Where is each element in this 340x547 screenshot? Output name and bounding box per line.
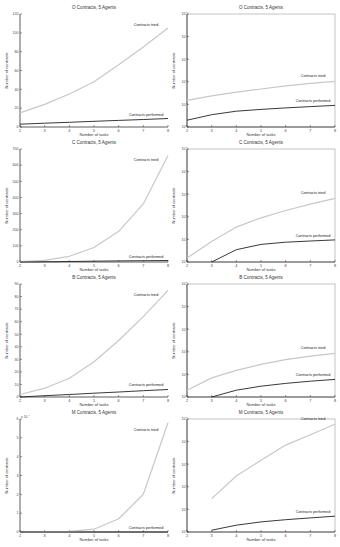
series-annotation: Contracts tried [134,158,159,162]
y-tick-label: 500 [13,180,19,184]
x-tick-label: 4 [68,534,70,538]
chart-panel-C-linear: C Contracts, 5 Agents2345678010020030040… [0,135,170,275]
y-tick-label: 10 [182,328,186,332]
series-annotation: Contracts performed [129,383,164,387]
y-tick-label: 4 [17,455,19,459]
y-tick-label: 50 [15,333,19,337]
y-tick-label: 6 [17,417,19,421]
x-tick-label: 3 [44,264,46,268]
chart-panel-M-log: M Contracts, 5 Agents2345678100101102103… [170,405,340,547]
x-tick-label: 8 [334,129,336,133]
y-tick-label: 300 [13,212,19,216]
series-annotation: Contracts performed [296,99,331,103]
series-line-performed [20,119,168,125]
x-tick-label: 6 [118,264,120,268]
x-tick-label: 6 [285,264,287,268]
y-tick-label: 200 [13,228,19,232]
x-tick-label: 3 [211,264,213,268]
y-tick-label: 60 [15,320,19,324]
y-tick-label: 700 [13,147,19,151]
x-tick-label: 2 [186,129,188,133]
y-tick-label: 3 [17,474,19,478]
y-tick-label: 10 [182,350,186,354]
y-tick-label: 10 [182,508,186,512]
y-tick-label: 40 [15,345,19,349]
y-tick-label: 90 [15,282,19,286]
chart-title: C Contracts, 5 Agents [72,140,117,145]
y-tick-label: 10 [182,417,186,421]
series-annotation: Contracts performed [296,373,331,377]
series-annotation: Contracts performed [296,234,331,238]
x-tick-label: 2 [186,399,188,403]
series-line-tried [187,81,335,100]
y-tick-label: 1 [17,511,19,515]
svg-text:4: 4 [29,414,31,417]
x-tick-label: 7 [142,399,144,403]
y-tick-label: 10 [182,463,186,467]
x-axis-label: Number of tasks [246,537,275,542]
y-tick-label: 10 [182,147,186,151]
y-tick-label: 10 [182,80,186,84]
y-tick-label: 100 [13,31,19,35]
y-axis-label: Number of contracts [171,52,176,88]
y-tick-label: 0 [17,125,19,129]
x-tick-label: 8 [167,129,169,133]
x-tick-label: 7 [142,534,144,538]
x-tick-label: 4 [235,129,237,133]
series-annotation: Contracts tried [301,346,326,350]
x-tick-label: 2 [186,534,188,538]
y-tick-label: 10 [182,12,186,16]
y-tick-label: 80 [15,50,19,54]
chart-title: O Contracts, 5 Agents [239,5,284,10]
x-tick-label: 3 [211,399,213,403]
chart-title: B Contracts, 5 Agents [239,275,283,280]
series-annotation: Contracts tried [134,428,159,432]
y-tick-label: 10 [182,170,186,174]
y-tick-label: 10 [182,305,186,309]
y-tick-label: 0 [17,260,19,264]
series-annotation: Contracts performed [296,510,331,514]
chart-panel-C-log: C Contracts, 5 Agents2345678100101102103… [170,135,340,275]
chart-panel-O-linear: O Contracts, 5 Agents2345678020406080100… [0,0,170,140]
x-tick-label: 6 [285,129,287,133]
y-axis-label: Number of contracts [171,322,176,358]
series-line-performed [212,516,335,530]
y-tick-label: 10 [182,238,186,242]
y-tick-label: 10 [182,58,186,62]
y-tick-label: 30 [15,358,19,362]
series-annotation: Contracts tried [134,23,159,27]
x-tick-label: 8 [167,264,169,268]
chart-panel-M-linear: M Contracts, 5 Agents23456780123456x 104… [0,405,170,547]
y-tick-label: 20 [15,106,19,110]
y-tick-label: 5 [17,436,19,440]
series-line-performed [187,105,335,120]
y-tick-label: 70 [15,307,19,311]
y-tick-label: 80 [15,295,19,299]
y-tick-label: 0 [17,530,19,534]
series-annotation: Contracts performed [129,526,164,530]
y-tick-label: 40 [15,88,19,92]
series-annotation: Contracts performed [129,113,164,117]
x-tick-label: 2 [19,399,21,403]
y-tick-label: 100 [13,244,19,248]
x-tick-label: 2 [186,264,188,268]
series-line-tried [187,353,335,390]
x-tick-label: 2 [19,264,21,268]
x-tick-label: 3 [211,129,213,133]
y-tick-label: 10 [182,103,186,107]
x-tick-label: 3 [44,534,46,538]
x-tick-label: 2 [19,129,21,133]
y-axis-label: Number of contracts [4,52,9,88]
y-tick-label: 400 [13,196,19,200]
x-tick-label: 6 [118,399,120,403]
series-line-tried [20,290,168,394]
x-tick-label: 7 [309,399,311,403]
x-tick-label: 6 [285,399,287,403]
y-tick-label: 10 [182,530,186,534]
chart-title: M Contracts, 5 Agents [239,410,284,415]
chart-panel-O-log: O Contracts, 5 Agents2345678100101102103… [170,0,340,140]
series-line-tried [20,423,168,532]
y-axis-label: Number of contracts [4,457,9,493]
series-line-tried [20,28,168,113]
y-tick-label: 10 [182,282,186,286]
